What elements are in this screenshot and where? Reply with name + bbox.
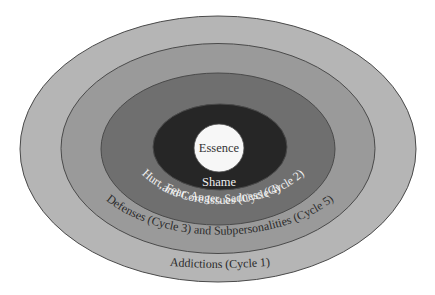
concentric-ellipse-diagram: Essence Shame Hurt, Fear, Anger, Sadness… <box>0 0 435 295</box>
label-essence: Essence <box>199 141 240 155</box>
label-shame: Shame <box>202 175 236 189</box>
label-addictions: Addictions (Cycle 1) <box>169 255 270 271</box>
